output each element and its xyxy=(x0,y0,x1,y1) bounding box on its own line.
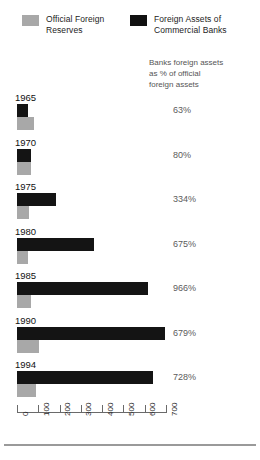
bar-group-1970: 197080% xyxy=(0,137,260,182)
bar-group-1965: 196563% xyxy=(0,92,260,137)
x-axis-tick-label: 700 xyxy=(170,403,179,416)
x-axis-tick xyxy=(102,405,103,413)
bar-pair xyxy=(17,327,165,353)
bar-group-1990: 1990679% xyxy=(0,315,260,360)
bar-group-1985: 1985966% xyxy=(0,270,260,315)
bar-official-foreign-reserves xyxy=(17,206,29,219)
bar-foreign-assets-commercial-banks xyxy=(17,149,31,162)
x-axis-tick xyxy=(60,405,61,413)
bar-group-label: 1980 xyxy=(15,226,36,237)
x-axis-tick xyxy=(166,405,167,413)
x-axis-tick xyxy=(145,405,146,413)
bar-foreign-assets-commercial-banks xyxy=(17,104,28,117)
bottom-divider xyxy=(4,444,256,446)
bar-group-label: 1975 xyxy=(15,181,36,192)
x-axis-tick-label: 500 xyxy=(127,403,136,416)
bar-chart-plot-area: 196563%197080%1975334%1980675%1985966%19… xyxy=(0,92,260,402)
x-axis-tick-label: 400 xyxy=(106,403,115,416)
bar-group-percentage-label: 728% xyxy=(173,372,196,382)
x-axis-tick-label: 200 xyxy=(63,403,72,416)
legend-label-official-foreign-reserves: Official Foreign Reserves xyxy=(46,14,104,36)
bar-group-percentage-label: 966% xyxy=(173,283,196,293)
bar-group-1975: 1975334% xyxy=(0,181,260,226)
bar-pair xyxy=(17,104,34,130)
bar-group-percentage-label: 679% xyxy=(173,328,196,338)
x-axis-tick xyxy=(123,405,124,413)
x-axis-tick xyxy=(17,405,18,413)
x-axis-tick xyxy=(38,405,39,413)
bar-pair xyxy=(17,193,56,219)
bar-official-foreign-reserves xyxy=(17,295,31,308)
bar-pair xyxy=(17,238,94,264)
bar-pair xyxy=(17,149,31,175)
bar-group-label: 1965 xyxy=(15,92,36,103)
bar-group-label: 1990 xyxy=(15,315,36,326)
bar-group-percentage-label: 63% xyxy=(173,105,191,115)
bar-group-percentage-label: 334% xyxy=(173,194,196,204)
bar-official-foreign-reserves xyxy=(17,117,34,130)
bar-group-label: 1985 xyxy=(15,270,36,281)
bar-group-1994: 1994728% xyxy=(0,359,260,404)
percentage-column-header: Banks foreign assets as % of official fo… xyxy=(149,57,257,90)
bar-group-percentage-label: 80% xyxy=(173,150,191,160)
legend-swatch-gray-icon xyxy=(22,15,39,26)
legend-item-official-foreign-reserves: Official Foreign Reserves xyxy=(22,14,104,36)
legend-item-foreign-assets-commercial-banks: Foreign Assets of Commercial Banks xyxy=(130,14,227,36)
x-axis-tick-label: 0 xyxy=(21,412,30,416)
x-axis-tick-label: 300 xyxy=(84,403,93,416)
bar-group-label: 1970 xyxy=(15,137,36,148)
bar-foreign-assets-commercial-banks xyxy=(17,238,94,251)
x-axis-tick xyxy=(81,405,82,413)
bar-foreign-assets-commercial-banks xyxy=(17,327,165,340)
legend-label-foreign-assets-commercial-banks: Foreign Assets of Commercial Banks xyxy=(154,14,227,36)
legend-swatch-black-icon xyxy=(130,15,147,26)
bar-foreign-assets-commercial-banks xyxy=(17,371,153,384)
bar-official-foreign-reserves xyxy=(17,340,39,353)
x-axis-tick-label: 100 xyxy=(42,403,51,416)
x-axis-tick-label: 600 xyxy=(148,403,157,416)
bar-group-label: 1994 xyxy=(15,359,36,370)
bar-pair xyxy=(17,371,153,397)
bar-foreign-assets-commercial-banks xyxy=(17,193,56,206)
bar-official-foreign-reserves xyxy=(17,251,28,264)
bar-group-percentage-label: 675% xyxy=(173,239,196,249)
bar-foreign-assets-commercial-banks xyxy=(17,282,148,295)
bar-official-foreign-reserves xyxy=(17,162,31,175)
bar-pair xyxy=(17,282,148,308)
bar-official-foreign-reserves xyxy=(17,384,36,397)
bar-group-1980: 1980675% xyxy=(0,226,260,271)
chart-legend: Official Foreign Reserves Foreign Assets… xyxy=(0,14,260,48)
